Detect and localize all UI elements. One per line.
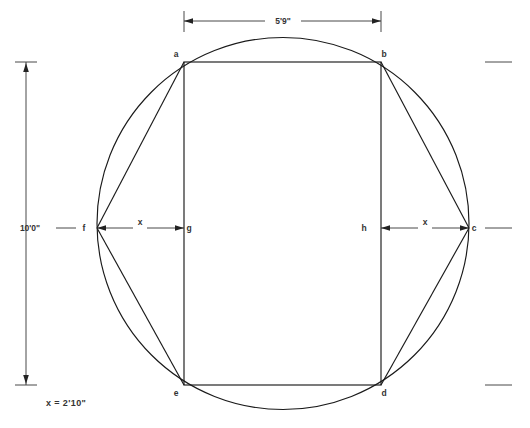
chord-f-a <box>97 62 184 228</box>
inscribed-rectangle <box>184 62 381 385</box>
circumscribed-circle <box>97 38 469 410</box>
vertex-label-h: h <box>361 223 366 233</box>
chord-c-b <box>381 62 469 228</box>
vertex-label-f: f <box>83 223 86 233</box>
inner-right-x-dimension: x <box>381 217 469 231</box>
top-arrowhead-right <box>372 18 381 24</box>
left-height-dimension: 10'0" <box>15 62 76 385</box>
right-extension-ticks <box>485 62 512 385</box>
chord-f-e <box>97 228 184 385</box>
x-value-note: x = 2'10" <box>46 398 86 408</box>
diagram-canvas: 5'9" 10'0" x x <box>0 0 530 428</box>
vertex-label-g: g <box>186 223 191 233</box>
top-width-dimension: 5'9" <box>184 11 381 32</box>
top-dimension-label: 5'9" <box>275 16 291 26</box>
x-right-dimension-label: x <box>423 217 428 227</box>
x-right-arrowhead-left <box>381 225 390 231</box>
x-left-arrowhead-right <box>175 225 184 231</box>
top-arrowhead-left <box>184 18 193 24</box>
left-arrowhead-bottom <box>23 375 29 384</box>
vertex-label-b: b <box>381 49 386 59</box>
vertex-label-a: a <box>174 49 179 59</box>
vertex-label-c: c <box>472 223 477 233</box>
x-left-dimension-label: x <box>138 217 143 227</box>
left-dimension-label: 10'0" <box>20 223 40 233</box>
vertex-label-d: d <box>381 388 386 398</box>
geometry-diagram: 5'9" 10'0" x x <box>0 0 530 428</box>
left-arrowhead-top <box>23 63 29 72</box>
inner-left-x-dimension: x <box>97 217 184 231</box>
chord-c-d <box>381 228 469 385</box>
vertex-label-e: e <box>174 388 179 398</box>
